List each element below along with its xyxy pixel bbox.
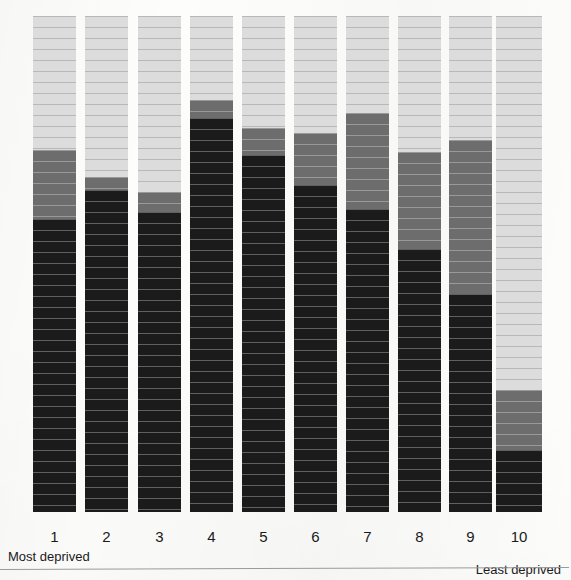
bar-segment-light-grey xyxy=(496,16,542,390)
bar-decile-7 xyxy=(346,16,389,512)
bar-segment-light-grey xyxy=(449,16,492,140)
x-tick-label-4: 4 xyxy=(190,528,233,545)
x-tick-label-6: 6 xyxy=(294,528,337,545)
bar-segment-dark-grey xyxy=(242,128,285,155)
bar-segment-black xyxy=(33,219,76,512)
bar-segment-dark-grey xyxy=(496,390,542,450)
bar-segment-light-grey xyxy=(398,16,441,152)
bar-decile-5 xyxy=(242,16,285,512)
bar-segment-light-grey xyxy=(294,16,337,133)
bar-segment-black xyxy=(85,190,128,512)
x-tick-label-7: 7 xyxy=(346,528,389,545)
axis-annotation-most-deprived: Most deprived xyxy=(8,549,90,564)
bar-segment-dark-grey xyxy=(346,113,389,210)
bar-segment-dark-grey xyxy=(138,192,181,212)
x-tick-label-9: 9 xyxy=(449,528,492,545)
bar-decile-10 xyxy=(496,16,542,512)
x-tick-label-2: 2 xyxy=(85,528,128,545)
x-tick-label-5: 5 xyxy=(242,528,285,545)
bar-segment-black xyxy=(138,212,181,512)
bar-segment-light-grey xyxy=(138,16,181,192)
bar-segment-light-grey xyxy=(346,16,389,113)
bar-segment-black xyxy=(346,209,389,512)
bar-decile-9 xyxy=(449,16,492,512)
bar-segment-dark-grey xyxy=(449,140,492,294)
bar-decile-1 xyxy=(33,16,76,512)
bar-segment-dark-grey xyxy=(294,133,337,185)
bar-segment-light-grey xyxy=(190,16,233,100)
bar-segment-light-grey xyxy=(85,16,128,177)
bar-segment-black xyxy=(449,294,492,512)
bar-segment-dark-grey xyxy=(190,100,233,117)
bar-segment-black xyxy=(242,155,285,512)
x-tick-label-1: 1 xyxy=(33,528,76,545)
bar-segment-black xyxy=(398,249,441,512)
x-tick-label-3: 3 xyxy=(138,528,181,545)
x-tick-label-8: 8 xyxy=(398,528,441,545)
bar-segment-dark-grey xyxy=(85,177,128,189)
bar-decile-2 xyxy=(85,16,128,512)
plot-area xyxy=(0,0,571,524)
bar-segment-dark-grey xyxy=(33,150,76,219)
axis-annotation-least-deprived: Least deprived xyxy=(476,562,561,577)
bar-decile-6 xyxy=(294,16,337,512)
x-tick-label-10: 10 xyxy=(496,528,542,545)
bar-segment-light-grey xyxy=(242,16,285,128)
bar-segment-black xyxy=(496,450,542,512)
bar-decile-4 xyxy=(190,16,233,512)
bar-decile-8 xyxy=(398,16,441,512)
bar-segment-dark-grey xyxy=(398,152,441,249)
bar-segment-black xyxy=(190,118,233,512)
stacked-bar-chart-figure: 12345678910 Most deprived Least deprived xyxy=(0,0,571,580)
bar-segment-light-grey xyxy=(33,16,76,150)
bar-decile-3 xyxy=(138,16,181,512)
bar-segment-black xyxy=(294,185,337,512)
